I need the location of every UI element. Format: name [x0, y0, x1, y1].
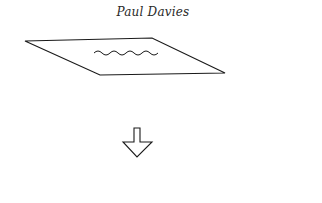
page: Paul Davies	[0, 0, 322, 203]
down-arrow-icon	[123, 128, 152, 157]
wave-line-icon	[94, 51, 158, 55]
plane-parallelogram	[25, 38, 225, 75]
diagram	[0, 0, 322, 203]
